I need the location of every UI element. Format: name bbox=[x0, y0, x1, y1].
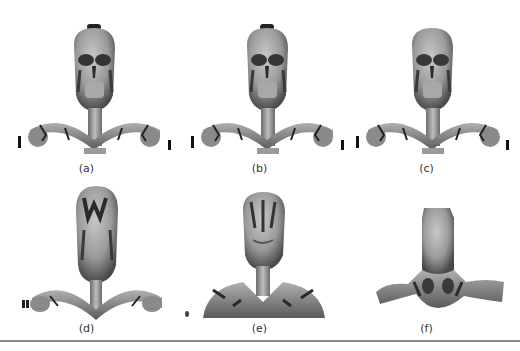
figure-panel-c: (c) bbox=[346, 0, 519, 170]
figure-panel-f: (f) bbox=[346, 170, 519, 340]
figure-bottom-rule bbox=[0, 340, 520, 342]
figure-panel-d: (d) bbox=[0, 170, 173, 340]
panel-caption: (d) bbox=[0, 322, 173, 335]
skull-mesh-full-detail bbox=[0, 0, 173, 160]
figure-panel-b: (b) bbox=[173, 0, 346, 170]
figure-panel-a: (a) bbox=[0, 0, 173, 170]
figure-panel-e: (e) bbox=[173, 170, 346, 340]
skull-mesh-high-detail bbox=[173, 0, 346, 160]
skull-mesh-lowest-detail bbox=[346, 170, 519, 330]
skull-mesh-medium-high-detail bbox=[346, 0, 519, 160]
skull-mesh-medium-detail bbox=[0, 170, 173, 330]
panel-caption: (f) bbox=[340, 322, 513, 335]
skull-mesh-low-detail bbox=[173, 170, 346, 330]
panel-caption: (e) bbox=[173, 322, 346, 335]
